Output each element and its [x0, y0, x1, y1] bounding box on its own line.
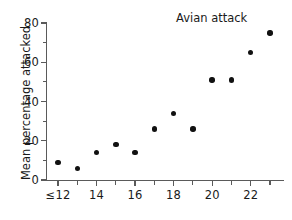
plot-area: 020406080 ≤121416182022 Mean percentage … — [0, 0, 292, 220]
x-tick-label-3: 18 — [154, 188, 194, 202]
x-tick-major-1 — [96, 181, 97, 186]
y-tick-minor-1 — [43, 121, 46, 122]
x-tick-label-1: 14 — [77, 188, 117, 202]
data-point — [267, 30, 272, 35]
data-point — [113, 142, 118, 147]
x-tick-label-2: 16 — [115, 188, 155, 202]
data-point — [152, 126, 157, 131]
y-axis-title: Mean percentage attacked — [19, 23, 33, 183]
y-tick-minor-0 — [43, 160, 46, 161]
y-tick-major-2 — [41, 101, 46, 102]
data-point — [75, 166, 80, 171]
x-tick-minor-3 — [192, 181, 193, 185]
x-tick-minor-1 — [115, 181, 116, 185]
data-point — [190, 126, 195, 131]
x-tick-label-4: 20 — [192, 188, 232, 202]
x-axis-line — [46, 180, 284, 181]
y-tick-major-1 — [41, 140, 46, 141]
y-tick-major-4 — [41, 22, 46, 23]
data-point — [94, 150, 99, 155]
figure-avian-attack-scatter: 020406080 ≤121416182022 Mean percentage … — [0, 0, 292, 220]
x-tick-label-0: ≤12 — [38, 188, 78, 202]
data-point — [229, 77, 234, 82]
y-tick-minor-2 — [43, 81, 46, 82]
x-tick-minor-0 — [77, 181, 78, 185]
x-tick-major-2 — [134, 181, 135, 186]
plot-annotation: Avian attack — [176, 11, 247, 25]
x-tick-label-5: 22 — [231, 188, 271, 202]
data-point — [132, 150, 137, 155]
x-tick-major-0 — [57, 181, 58, 186]
y-axis-line — [46, 22, 47, 181]
x-tick-minor-2 — [154, 181, 155, 185]
x-tick-minor-4 — [231, 181, 232, 185]
y-tick-minor-3 — [43, 42, 46, 43]
data-point — [55, 160, 60, 165]
x-tick-major-4 — [212, 181, 213, 186]
x-tick-major-5 — [250, 181, 251, 186]
data-point — [209, 77, 214, 82]
x-tick-minor-5 — [269, 181, 270, 185]
x-tick-major-3 — [173, 181, 174, 186]
data-point — [248, 50, 253, 55]
y-tick-major-3 — [41, 62, 46, 63]
data-point — [171, 111, 176, 116]
y-tick-major-0 — [41, 179, 46, 180]
